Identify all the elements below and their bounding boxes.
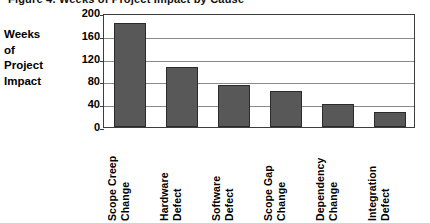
x-category-label-line: Dependency xyxy=(314,158,326,221)
plot-area xyxy=(103,14,415,128)
figure-title: Figure 4. Weeks of Project Impact by Cau… xyxy=(8,0,244,5)
x-category-label-line: Defect xyxy=(223,188,235,221)
x-category-label-line: Change xyxy=(327,182,339,221)
bar-series xyxy=(104,15,414,127)
y-tick-label: 80 xyxy=(64,76,100,87)
bar xyxy=(114,23,145,127)
x-category-label-line: Scope Creep xyxy=(106,156,118,221)
y-tick-label: 160 xyxy=(64,31,100,42)
x-category-label-line: Change xyxy=(275,182,287,221)
x-axis-category-labels: Scope CreepChangeHardwareDefectSoftwareD… xyxy=(103,130,415,223)
x-category-label-line: Defect xyxy=(171,188,183,221)
x-category-label-line: Change xyxy=(119,182,131,221)
y-axis-title-line-3: Project xyxy=(4,58,60,74)
x-category-label-line: Hardware xyxy=(158,172,170,221)
y-axis-title: Weeks of Project Impact xyxy=(4,27,60,89)
y-tick-label: 120 xyxy=(64,54,100,65)
y-axis-tick-labels: 20016012080400 xyxy=(62,0,100,223)
bar xyxy=(218,85,249,127)
y-tick-label: 200 xyxy=(64,8,100,19)
bar-chart-figure: Figure 4. Weeks of Project Impact by Cau… xyxy=(0,0,430,223)
y-tick-label: 0 xyxy=(64,122,100,133)
bar xyxy=(166,67,197,127)
x-category-label-line: Scope Gap xyxy=(262,165,274,221)
y-axis-title-line-4: Impact xyxy=(4,74,60,90)
y-tick-label: 40 xyxy=(64,99,100,110)
bar xyxy=(270,91,301,127)
bar xyxy=(374,112,405,127)
y-axis-title-line-2: of xyxy=(4,43,60,59)
y-axis-title-line-1: Weeks xyxy=(4,27,60,43)
bar xyxy=(322,104,353,127)
x-category-label-line: Integration xyxy=(366,166,378,221)
x-category-label-line: Defect xyxy=(379,188,391,221)
x-category-label-line: Software xyxy=(210,176,222,221)
